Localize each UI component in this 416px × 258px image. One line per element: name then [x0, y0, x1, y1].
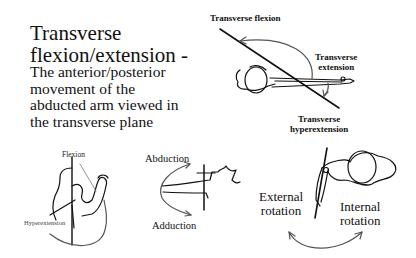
label-transverse-flexion: Transverse flexion [210, 13, 281, 23]
label-transverse-extension: Transverse extension [315, 52, 357, 72]
label-hyperextension: Hyperextension [24, 219, 65, 226]
label-abduction: Abduction [145, 153, 189, 165]
label-flexion: Flexion [62, 150, 85, 159]
label-internal-rotation: Internal rotation [340, 200, 380, 228]
label-adduction: Adduction [152, 220, 196, 232]
label-transverse-hyperextension: Transverse hyperextension [290, 114, 348, 134]
label-external-rotation: External rotation [259, 190, 303, 218]
sagittal-plane-figure [50, 157, 108, 246]
frontal-plane-figure [161, 162, 240, 216]
